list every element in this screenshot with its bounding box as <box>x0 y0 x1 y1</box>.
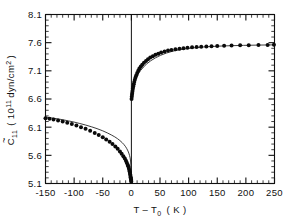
y-tick-label: 5.6 <box>28 150 42 161</box>
data-points <box>44 43 276 184</box>
y-tick-label: 7.1 <box>28 65 42 76</box>
data-point <box>65 121 69 125</box>
data-point <box>195 45 199 49</box>
data-point <box>256 43 260 47</box>
data-point <box>181 46 185 50</box>
y-axis-title-unit-exponent: 2 <box>5 60 12 64</box>
data-point <box>169 48 173 52</box>
chart-canvas: -150-100-50050100150200250 5.15.66.16.67… <box>0 0 286 222</box>
data-point <box>215 44 219 48</box>
x-axis-ticks <box>46 15 275 184</box>
data-point <box>173 47 177 51</box>
data-point <box>199 45 203 49</box>
y-tick-labels: 5.15.66.16.67.17.68.1 <box>28 9 42 189</box>
data-point <box>88 129 92 133</box>
y-tick-label: 5.1 <box>28 178 42 189</box>
x-axis-title-lead: T – T <box>133 204 157 215</box>
y-tick-label: 7.6 <box>28 37 42 48</box>
figure-container: -150-100-50050100150200250 5.15.66.16.67… <box>0 0 286 222</box>
y-tick-label: 8.1 <box>28 9 42 20</box>
x-tick-label: 50 <box>154 187 165 198</box>
data-point <box>74 123 78 127</box>
data-point <box>48 117 52 121</box>
data-point <box>84 127 88 131</box>
data-point <box>61 120 65 124</box>
y-tick-label: 6.1 <box>28 122 42 133</box>
x-axis-title-unit: ( K ) <box>167 204 187 215</box>
fit-curves <box>46 45 275 183</box>
y-axis-title-unit: dyn/cm <box>5 65 16 98</box>
x-tick-label: 150 <box>209 187 226 198</box>
x-tick-label: 200 <box>238 187 255 198</box>
data-point <box>97 133 101 137</box>
data-point <box>177 47 181 51</box>
data-point <box>238 43 242 47</box>
data-point <box>101 135 105 139</box>
y-axis-ticks <box>46 15 275 184</box>
svg-text:C11( 1011dyn/cm2): C11( 1011dyn/cm2) <box>5 55 19 145</box>
x-tick-label: 0 <box>129 187 135 198</box>
y-axis-title-exponent: 11 <box>5 100 12 108</box>
data-point <box>247 43 251 47</box>
data-point <box>185 46 189 50</box>
data-point <box>129 180 133 184</box>
data-point <box>166 49 170 53</box>
data-point <box>56 118 60 122</box>
data-point <box>266 43 270 47</box>
data-point <box>159 51 163 55</box>
fit-curve-1 <box>131 45 274 100</box>
data-point <box>272 43 276 47</box>
y-axis-title: C11( 1011dyn/cm2) ~ <box>0 55 18 145</box>
x-tick-labels: -150-100-50050100150200250 <box>35 187 282 198</box>
data-point <box>230 44 234 48</box>
x-axis-title-subscript: 0 <box>157 210 161 217</box>
y-axis-title-symbol-subscript: 11 <box>11 130 18 138</box>
data-point <box>210 44 214 48</box>
data-point <box>70 122 74 126</box>
x-axis-title: T – T0( K ) <box>133 204 186 217</box>
plot-frame <box>46 15 275 184</box>
x-tick-label: 250 <box>266 187 283 198</box>
data-point <box>204 44 208 48</box>
x-tick-label: 100 <box>180 187 197 198</box>
data-point <box>104 138 108 142</box>
x-tick-label: -100 <box>64 187 84 198</box>
y-tick-label: 6.6 <box>28 93 42 104</box>
data-point <box>79 125 83 129</box>
data-point <box>44 116 48 120</box>
data-point <box>52 118 56 122</box>
data-point <box>93 131 97 135</box>
data-point <box>222 44 226 48</box>
y-axis-title-open: ( 10 <box>5 108 16 126</box>
data-point <box>163 49 167 53</box>
data-point <box>190 45 194 49</box>
x-tick-label: -50 <box>95 187 110 198</box>
y-axis-title-tilde: ~ <box>0 137 9 143</box>
svg-text:T – T0( K ): T – T0( K ) <box>133 204 186 217</box>
y-axis-title-close: ) <box>5 55 16 59</box>
